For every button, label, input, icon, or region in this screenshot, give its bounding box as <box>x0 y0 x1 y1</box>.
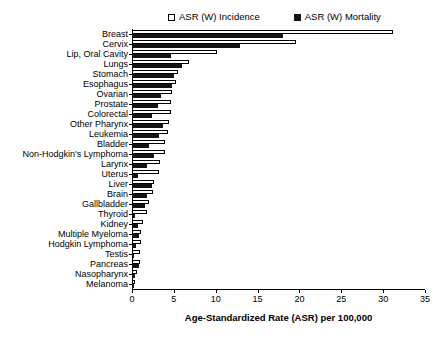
chart-row: Leukemia <box>132 129 425 139</box>
bar-incidence <box>132 120 169 123</box>
x-axis-tick <box>425 290 426 293</box>
chart-row: Lip, Oral Cavity <box>132 49 425 59</box>
bar-incidence <box>132 170 159 173</box>
bar-mortality <box>132 234 139 237</box>
bar-mortality <box>132 244 136 247</box>
bar-mortality <box>132 64 182 67</box>
x-axis-tick <box>132 290 133 293</box>
chart-row: Pancreas <box>132 259 425 269</box>
x-axis-tick-label: 5 <box>171 294 176 304</box>
chart-row: Gallbladder <box>132 199 425 209</box>
chart-row: Larynx <box>132 159 425 169</box>
category-label-gallbladder: Gallbladder <box>82 200 128 209</box>
category-label-lungs: Lungs <box>103 60 128 69</box>
bar-incidence <box>132 50 217 53</box>
chart-row: Testis <box>132 249 425 259</box>
bar-mortality <box>132 84 172 87</box>
category-label-uterus: Uterus <box>101 170 128 179</box>
bar-mortality <box>132 224 138 227</box>
x-axis-tick-label: 30 <box>378 294 388 304</box>
bar-incidence <box>132 100 171 103</box>
bar-mortality <box>132 34 283 37</box>
bar-mortality <box>132 184 152 187</box>
category-label-prostate: Prostate <box>94 100 128 109</box>
category-label-stomach: Stomach <box>92 70 128 79</box>
bar-incidence <box>132 140 165 143</box>
category-label-melanoma: Melanoma <box>86 280 128 289</box>
chart-row: Stomach <box>132 69 425 79</box>
category-label-leukemia: Leukemia <box>89 130 128 139</box>
legend-label: ASR (W) Mortality <box>305 12 381 22</box>
legend-entry-2: ASR (W) Mortality <box>294 12 381 22</box>
x-axis-tick-label: 10 <box>211 294 221 304</box>
category-label-brain: Brain <box>107 190 128 199</box>
x-axis-tick <box>216 290 217 293</box>
x-axis-tick <box>341 290 342 293</box>
category-label-hodgkin-lymphoma: Hodgkin Lymphoma <box>48 240 128 249</box>
bar-mortality <box>132 114 152 117</box>
x-axis-tick-label: 15 <box>253 294 263 304</box>
bar-mortality <box>132 204 145 207</box>
category-label-breast: Breast <box>102 30 128 39</box>
bar-incidence <box>132 180 154 183</box>
bar-mortality <box>132 44 240 47</box>
bar-incidence <box>132 110 171 113</box>
category-label-bladder: Bladder <box>97 140 128 149</box>
bar-mortality <box>132 144 149 147</box>
legend-entry-1: ASR (W) Incidence <box>168 12 260 22</box>
x-axis-tick-label: 0 <box>129 294 134 304</box>
category-label-liver: Liver <box>108 180 128 189</box>
bar-incidence <box>132 270 137 273</box>
category-label-larynx: Larynx <box>101 160 128 169</box>
legend-swatch-open-icon <box>168 14 175 21</box>
bar-incidence <box>132 30 393 33</box>
bar-mortality <box>132 164 147 167</box>
legend-swatch-filled-icon <box>294 14 301 21</box>
bar-mortality <box>132 194 147 197</box>
x-axis-tick-label: 20 <box>294 294 304 304</box>
chart-row: Uterus <box>132 169 425 179</box>
chart-row: Melanoma <box>132 279 425 289</box>
bar-incidence <box>132 210 147 213</box>
chart-row: Breast <box>132 29 425 39</box>
category-label-testis: Testis <box>105 250 128 259</box>
bar-incidence <box>132 80 176 83</box>
bar-mortality <box>132 94 161 97</box>
chart-row: Cervix <box>132 39 425 49</box>
x-axis-tick <box>299 290 300 293</box>
chart-row: Kidney <box>132 219 425 229</box>
bar-mortality <box>132 174 138 177</box>
chart-row: Multiple Myeloma <box>132 229 425 239</box>
category-label-esophagus: Esophagus <box>83 80 128 89</box>
plot-area: 05101520253035BreastCervixLip, Oral Cavi… <box>132 29 425 289</box>
x-axis-tick <box>174 290 175 293</box>
chart-row: Esophagus <box>132 79 425 89</box>
bar-incidence <box>132 90 172 93</box>
chart-row: Ovarian <box>132 89 425 99</box>
bar-mortality <box>132 134 159 137</box>
category-label-ovarian: Ovarian <box>96 90 128 99</box>
bar-incidence <box>132 200 149 203</box>
chart-row: Nasopharynx <box>132 269 425 279</box>
bar-incidence <box>132 280 135 283</box>
category-label-colorectal: Colorectal <box>87 110 128 119</box>
category-label-kidney: Kidney <box>100 220 128 229</box>
x-axis-tick-label: 25 <box>336 294 346 304</box>
bar-incidence <box>132 40 296 43</box>
bar-incidence <box>132 250 140 253</box>
x-axis-title: Age-Standardized Rate (ASR) per 100,000 <box>132 312 425 323</box>
bar-mortality <box>132 104 158 107</box>
chart-row: Non-Hodgkin's Lymphoma <box>132 149 425 159</box>
bar-incidence <box>132 130 168 133</box>
x-axis-tick-label: 35 <box>420 294 430 304</box>
bar-incidence <box>132 220 143 223</box>
category-label-thyroid: Thyroid <box>98 210 128 219</box>
chart-row: Hodgkin Lymphoma <box>132 239 425 249</box>
bar-mortality <box>132 284 134 287</box>
chart-row: Lungs <box>132 59 425 69</box>
bar-chart-figure: ASR (W) IncidenceASR (W) Mortality 05101… <box>0 0 446 341</box>
bar-incidence <box>132 60 189 63</box>
bar-incidence <box>132 150 165 153</box>
category-label-pancreas: Pancreas <box>90 260 128 269</box>
chart-row: Prostate <box>132 99 425 109</box>
